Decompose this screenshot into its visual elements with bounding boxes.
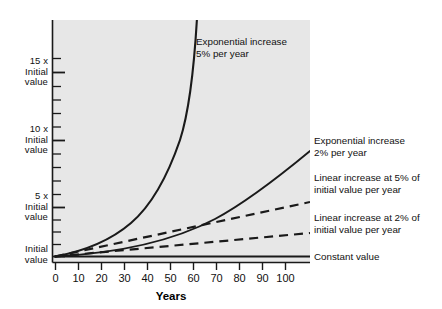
- x-tick-label-100: 100: [274, 272, 298, 284]
- annotation-linear-5-percent-line2: initial value per year: [314, 184, 420, 196]
- annotation-exponential-5-percent: Exponential increase 5% per year: [196, 36, 287, 59]
- x-tick-label-50: 50: [159, 272, 183, 284]
- annotation-exponential-5-percent-line1: Exponential increase: [196, 36, 287, 48]
- series-exponential-2-percent: [55, 151, 310, 257]
- annotation-linear-2-percent-line2: initial value per year: [314, 224, 420, 236]
- annotation-linear-2-percent: Linear increase at 2% of initial value p…: [314, 212, 420, 235]
- chart-figure: 15 x Initial value 10 x Initial value 5 …: [0, 0, 442, 309]
- x-axis-ticks: [56, 263, 286, 271]
- annotation-constant-value-line1: Constant value: [314, 251, 379, 263]
- annotation-linear-5-percent-line1: Linear increase at 5% of: [314, 172, 420, 184]
- series-linear-5-percent: [55, 202, 310, 257]
- annotation-constant-value: Constant value: [314, 251, 379, 263]
- annotation-exponential-2-percent-line1: Exponential increase: [314, 135, 405, 147]
- y-axis-minor-ticks: [53, 59, 62, 245]
- x-tick-label-80: 80: [228, 272, 252, 284]
- series-exponential-5-percent: [55, 18, 197, 257]
- annotation-linear-5-percent: Linear increase at 5% of initial value p…: [314, 172, 420, 195]
- x-tick-label-60: 60: [182, 272, 206, 284]
- x-tick-label-40: 40: [136, 272, 160, 284]
- x-tick-label-10: 10: [67, 272, 91, 284]
- x-tick-label-20: 20: [90, 272, 114, 284]
- x-axis-title: Years: [111, 290, 231, 302]
- annotation-exponential-2-percent: Exponential increase 2% per year: [314, 135, 405, 158]
- x-tick-label-70: 70: [205, 272, 229, 284]
- annotation-exponential-2-percent-line2: 2% per year: [314, 147, 405, 159]
- x-tick-label-30: 30: [113, 272, 137, 284]
- x-tick-label-90: 90: [251, 272, 275, 284]
- x-tick-label-0: 0: [44, 272, 68, 284]
- annotation-linear-2-percent-line1: Linear increase at 2% of: [314, 212, 420, 224]
- annotation-exponential-5-percent-line2: 5% per year: [196, 48, 287, 60]
